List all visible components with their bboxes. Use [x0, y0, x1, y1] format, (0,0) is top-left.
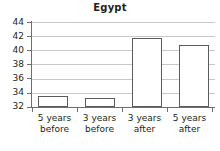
y-axis-tick-label-38: 38 [0, 60, 24, 69]
y-axis-tick-label-32: 32 [0, 102, 24, 111]
plot-area [32, 22, 215, 107]
y-axis-tick-label-42: 42 [0, 32, 24, 41]
x-axis-tick-1 [77, 108, 78, 112]
x-axis-label-line2: after [166, 124, 213, 135]
bar-3-years-after [132, 38, 162, 107]
bar-3-years-before [85, 98, 115, 107]
x-axis-tick-0 [32, 108, 33, 112]
chart-title: Egypt [0, 2, 220, 14]
bar-5-years-before [38, 96, 68, 107]
x-axis-label-5-years-before: 5 years before [31, 113, 78, 135]
x-axis-label-line2: before [31, 124, 78, 135]
x-axis-tick-2 [122, 108, 123, 112]
bar-chart: Egypt 44 42 40 38 36 34 32 5 years befor… [0, 0, 220, 151]
y-axis-tick-label-34: 34 [0, 88, 24, 97]
x-axis-label-line2: before [76, 124, 123, 135]
x-axis-label-line1: 3 years [128, 113, 161, 123]
x-axis-label-3-years-after: 3 years after [121, 113, 168, 135]
y-axis-tick-label-40: 40 [0, 46, 24, 55]
y-axis-line [31, 21, 32, 108]
x-axis-label-line1: 3 years [83, 113, 116, 123]
gridline-44 [32, 22, 215, 23]
x-axis-tick-3 [167, 108, 168, 112]
x-axis-label-line1: 5 years [173, 113, 206, 123]
x-axis-tick-4 [212, 108, 213, 112]
y-axis-tick-label-36: 36 [0, 74, 24, 83]
x-axis-label-line2: after [121, 124, 168, 135]
gridline-42 [32, 36, 215, 37]
x-axis-label-5-years-after: 5 years after [166, 113, 213, 135]
x-axis-label-3-years-before: 3 years before [76, 113, 123, 135]
y-axis-tick-label-44: 44 [0, 18, 24, 27]
x-axis-line [31, 107, 215, 108]
x-axis-label-line1: 5 years [38, 113, 71, 123]
bar-5-years-after [179, 45, 209, 107]
